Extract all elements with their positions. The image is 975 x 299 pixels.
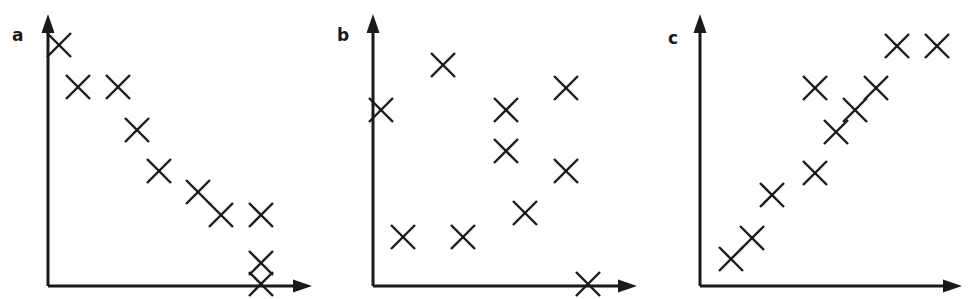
data-point-marker	[740, 226, 764, 250]
data-point-marker	[760, 183, 784, 207]
data-point-marker	[824, 120, 848, 144]
data-point-marker	[864, 76, 888, 100]
data-point-marker	[803, 161, 827, 185]
data-point-marker	[719, 247, 743, 271]
data-point-marker	[843, 98, 867, 122]
data-point-marker	[885, 34, 909, 58]
scatterplot-figure: a b c	[0, 0, 975, 299]
x-axis-arrowhead-icon	[943, 280, 962, 293]
panel-c-plot	[0, 0, 975, 299]
panel-c-label: c	[668, 30, 678, 47]
data-point-marker	[803, 76, 827, 100]
y-axis-arrowhead-icon	[694, 14, 707, 33]
data-point-marker	[925, 34, 949, 58]
